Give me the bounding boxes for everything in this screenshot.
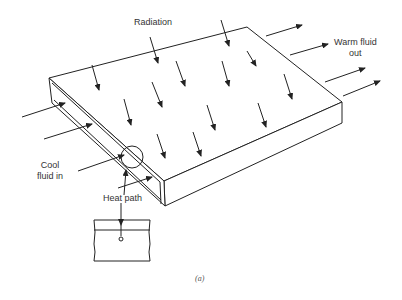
label-heat-path: Heat path — [103, 193, 142, 204]
label-warm-fluid-out: Warm fluid out — [334, 37, 377, 59]
label-cool-fluid-in: Cool fluid in — [37, 160, 63, 182]
detail-section — [94, 220, 150, 261]
label-radiation: Radiation — [134, 17, 172, 28]
figure-caption: (a) — [195, 274, 204, 283]
slab-top-face — [49, 27, 342, 181]
